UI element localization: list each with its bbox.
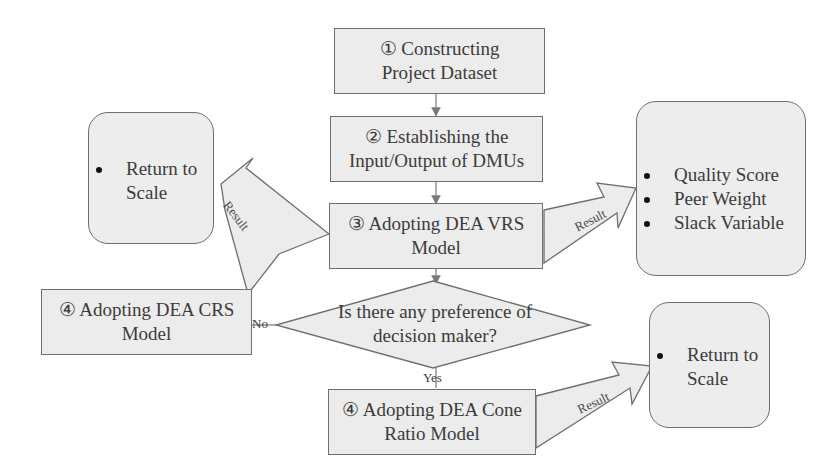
step-1-line1: ① Constructing [380, 37, 500, 61]
no-label: No [252, 316, 268, 332]
result-box-bottom: Return toScale [649, 302, 770, 428]
result-left-item: Return toScale [96, 157, 197, 205]
step-2-line1: ② Establishing the [349, 125, 524, 149]
flowchart-canvas: ① Constructing Project Dataset ② Establi… [0, 0, 837, 476]
step-2-line2: Input/Output of DMUs [349, 149, 524, 173]
result-box-right: Quality Score Peer Weight Slack Variable [636, 101, 806, 276]
result-right-item-2: Peer Weight [644, 187, 784, 211]
step-3-line2: Model [348, 236, 525, 260]
step-2-box: ② Establishing the Input/Output of DMUs [330, 116, 543, 182]
step-1-box: ① Constructing Project Dataset [334, 28, 545, 94]
step-4-crs-box: ④ Adopting DEA CRS Model [41, 289, 252, 355]
result-right-item-3: Slack Variable [644, 211, 784, 235]
step-3-box: ③ Adopting DEA VRS Model [329, 203, 543, 269]
step-1-line2: Project Dataset [380, 61, 500, 85]
step-4-cone-line1: ④ Adopting DEA Cone [342, 398, 522, 422]
step-4-crs-line1: ④ Adopting DEA CRS [59, 298, 235, 322]
decision-line1: Is there any preference of [300, 300, 570, 324]
result-box-left: Return toScale [88, 112, 214, 244]
decision-line2: decision maker? [300, 324, 570, 348]
result-right-item-1: Quality Score [644, 163, 784, 187]
decision-text: Is there any preference of decision make… [300, 300, 570, 348]
step-4-crs-line2: Model [59, 322, 235, 346]
result-bottom-item: Return toScale [657, 343, 758, 391]
step-4-cone-box: ④ Adopting DEA Cone Ratio Model [328, 389, 536, 455]
step-3-line1: ③ Adopting DEA VRS [348, 212, 525, 236]
yes-label: Yes [423, 370, 442, 386]
step-4-cone-line2: Ratio Model [342, 422, 522, 446]
